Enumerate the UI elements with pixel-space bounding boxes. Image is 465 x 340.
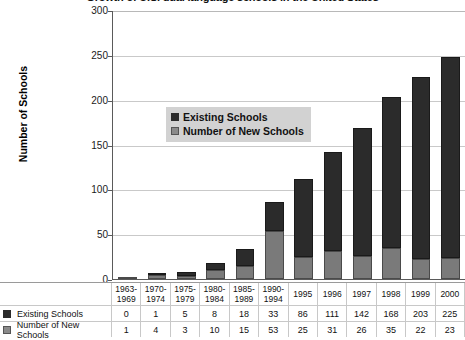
y-tick-250: 250 bbox=[68, 50, 108, 61]
chart-legend: Existing Schools Number of New Schools bbox=[166, 107, 311, 142]
bar-segment-new-1995 bbox=[294, 257, 313, 279]
table-row-swatch-icon bbox=[3, 310, 11, 318]
table-cell-r1-c1: 4 bbox=[141, 322, 170, 337]
table-header-line: 1980- bbox=[204, 284, 226, 294]
bar-segment-new-1963-1969 bbox=[118, 277, 137, 279]
bar-segment-new-1996 bbox=[324, 251, 343, 279]
y-tickmark-0 bbox=[108, 280, 112, 281]
legend-swatch-existing-icon bbox=[171, 113, 179, 121]
bar-group-1995 bbox=[289, 11, 318, 279]
table-header-line: 1969 bbox=[117, 294, 136, 304]
table-cell-r1-c9: 35 bbox=[377, 322, 406, 337]
bar-segment-new-1997 bbox=[353, 256, 372, 279]
table-row: Number of New Schools1431015532531263522… bbox=[0, 321, 465, 337]
table-cell-r1-c11: 23 bbox=[436, 322, 465, 337]
table-header-corner bbox=[0, 283, 112, 305]
table-row-cells: 0158183386111142168203225 bbox=[112, 306, 465, 321]
legend-label-existing: Existing Schools bbox=[183, 110, 268, 124]
bar-group-1985-1989 bbox=[230, 11, 259, 279]
table-cell-r0-c3: 8 bbox=[200, 306, 229, 321]
table-cell-r1-c6: 25 bbox=[289, 322, 318, 337]
bar-segment-existing-1995 bbox=[294, 179, 313, 256]
bar-group-1999 bbox=[406, 11, 435, 279]
legend-item-existing-schools: Existing Schools bbox=[171, 110, 304, 124]
table-row-label-text: Existing Schools bbox=[17, 309, 83, 319]
data-table: 1963-19691970-19741975-19791980-19841985… bbox=[0, 282, 465, 337]
y-tick-200: 200 bbox=[68, 95, 108, 106]
table-row-label-text: Number of New Schools bbox=[17, 320, 111, 340]
table-header-line: 1984 bbox=[205, 294, 224, 304]
table-header-line: 1985- bbox=[233, 284, 255, 294]
table-header-line: 1996 bbox=[323, 289, 342, 299]
table-row-cells: 143101553253126352223 bbox=[112, 322, 465, 337]
bar-series-group bbox=[113, 11, 465, 279]
table-cell-r0-c7: 111 bbox=[318, 306, 347, 321]
chart-area: Number of Schools 300250200150100500 Exi… bbox=[0, 0, 465, 282]
legend-swatch-new-icon bbox=[171, 127, 179, 135]
table-header-cell-0: 1963-1969 bbox=[112, 283, 141, 305]
table-cell-r0-c5: 33 bbox=[259, 306, 288, 321]
table-cell-r1-c7: 31 bbox=[318, 322, 347, 337]
table-cell-r0-c2: 5 bbox=[171, 306, 200, 321]
table-header-cell-8: 1997 bbox=[347, 283, 376, 305]
table-row-label-1: Number of New Schools bbox=[0, 322, 112, 337]
table-cell-r0-c0: 0 bbox=[112, 306, 141, 321]
table-header-cell-5: 1990-1994 bbox=[259, 283, 288, 305]
bar-segment-existing-1998 bbox=[382, 97, 401, 248]
table-header-line: 1997 bbox=[352, 289, 371, 299]
table-cell-r0-c4: 18 bbox=[230, 306, 259, 321]
legend-item-number-of-new-schools: Number of New Schools bbox=[171, 124, 304, 138]
bar-segment-new-1985-1989 bbox=[236, 266, 255, 279]
table-header-line: 1994 bbox=[264, 294, 283, 304]
table-header-line: 1998 bbox=[382, 289, 401, 299]
table-cell-r1-c0: 1 bbox=[112, 322, 141, 337]
y-tick-150: 150 bbox=[68, 140, 108, 151]
table-cell-r1-c2: 3 bbox=[171, 322, 200, 337]
table-header-cell-2: 1975-1979 bbox=[171, 283, 200, 305]
table-header-cell-11: 2000 bbox=[436, 283, 465, 305]
bar-group-1998 bbox=[377, 11, 406, 279]
table-header-line: 2000 bbox=[440, 289, 459, 299]
bar-segment-new-1990-1994 bbox=[265, 231, 284, 279]
table-header-cell-9: 1998 bbox=[377, 283, 406, 305]
bar-segment-new-2000 bbox=[441, 258, 460, 279]
bar-group-1975-1979 bbox=[172, 11, 201, 279]
table-header-line: 1995 bbox=[293, 289, 312, 299]
bar-segment-existing-2000 bbox=[441, 57, 460, 259]
table-cell-r0-c10: 203 bbox=[406, 306, 435, 321]
bar-segment-new-1998 bbox=[382, 248, 401, 279]
table-cell-r1-c3: 10 bbox=[200, 322, 229, 337]
bar-segment-new-1999 bbox=[412, 259, 431, 279]
bar-group-1980-1984 bbox=[201, 11, 230, 279]
bar-group-1997 bbox=[348, 11, 377, 279]
table-header-row: 1963-19691970-19741975-19791980-19841985… bbox=[0, 282, 465, 305]
bar-segment-new-1980-1984 bbox=[206, 270, 225, 279]
bar-segment-new-1975-1979 bbox=[177, 276, 196, 279]
table-header-line: 1970- bbox=[145, 284, 167, 294]
bar-group-2000 bbox=[436, 11, 465, 279]
table-header-cell-6: 1995 bbox=[289, 283, 318, 305]
table-header-line: 1990- bbox=[262, 284, 284, 294]
table-header-cell-7: 1996 bbox=[318, 283, 347, 305]
bar-segment-existing-1996 bbox=[324, 152, 343, 252]
table-cell-r1-c5: 53 bbox=[259, 322, 288, 337]
table-header-cell-1: 1970-1974 bbox=[141, 283, 170, 305]
y-tick-50: 50 bbox=[68, 229, 108, 240]
bar-segment-new-1970-1974 bbox=[148, 275, 167, 279]
table-cell-r0-c8: 142 bbox=[347, 306, 376, 321]
table-header-line: 1974 bbox=[146, 294, 165, 304]
table-header-line: 1989 bbox=[234, 294, 253, 304]
bar-segment-existing-1980-1984 bbox=[206, 263, 225, 270]
table-header-cell-4: 1985-1989 bbox=[230, 283, 259, 305]
y-tick-300: 300 bbox=[68, 5, 108, 16]
table-header-cell-3: 1980-1984 bbox=[200, 283, 229, 305]
table-cell-r1-c8: 26 bbox=[347, 322, 376, 337]
table-cell-r1-c10: 22 bbox=[406, 322, 435, 337]
bar-segment-existing-1990-1994 bbox=[265, 202, 284, 232]
plot-area bbox=[112, 11, 465, 280]
table-cell-r0-c11: 225 bbox=[436, 306, 465, 321]
table-cell-r0-c9: 168 bbox=[377, 306, 406, 321]
bar-group-1970-1974 bbox=[142, 11, 171, 279]
bar-group-1996 bbox=[318, 11, 347, 279]
